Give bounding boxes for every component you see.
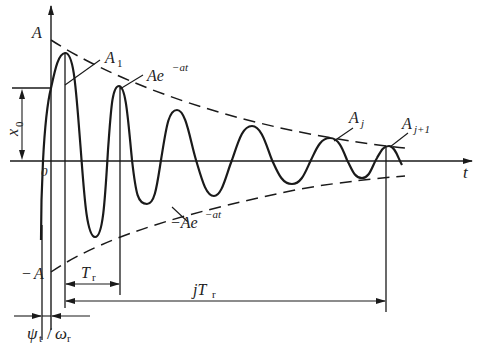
svg-text:0: 0 [13,121,25,127]
svg-text:T: T [81,264,91,281]
damped-oscillation-diagram: A − A t 0 x 0 A 1 Ae −at −Ae −at A j A j… [0,0,487,355]
upper-envelope-leader [120,75,143,89]
svg-text:x: x [4,129,21,137]
svg-text:t: t [39,332,42,344]
lower-envelope-curve [51,176,405,272]
svg-text:A: A [348,109,359,126]
x0-arrow-up [19,89,25,99]
svg-text:ψ: ψ [27,324,38,343]
label-upper-envelope: Ae −at [146,61,189,84]
svg-text:j+1: j+1 [412,123,430,135]
label-lower-envelope: −Ae −at [170,208,222,231]
aj1-leader [390,133,408,147]
a1-leader [65,60,100,85]
aj-leader [334,128,353,141]
svg-text:Ae: Ae [146,67,164,84]
label-phase-offset: ψ t / ω r [27,324,71,344]
svg-text:A: A [33,265,44,282]
svg-text:ω: ω [55,324,67,343]
label-j-periods: jT r [191,281,216,300]
label-amplitude-top: A [31,24,42,41]
svg-text:−at: −at [172,61,189,73]
label-origin: 0 [41,164,48,179]
label-peak-j: A j [348,109,364,129]
label-peak-j1: A j+1 [401,115,430,135]
svg-text:j: j [359,117,364,129]
label-amplitude-bottom: − A [22,265,44,282]
svg-text:−: − [22,265,31,282]
svg-text:A: A [104,49,115,66]
svg-text:−Ae: −Ae [170,214,198,231]
label-period: T r [81,264,96,283]
svg-text:r: r [67,332,71,344]
svg-text:jT: jT [191,281,207,299]
svg-text:1: 1 [117,57,123,69]
label-first-peak: A 1 [104,49,123,69]
svg-text:/: / [47,324,52,343]
svg-text:−at: −at [205,208,222,220]
svg-text:A: A [401,115,412,132]
x0-arrow-down [19,150,25,160]
svg-text:r: r [92,271,96,283]
label-time-axis: t [463,163,469,182]
damped-waveform [41,53,402,240]
svg-text:r: r [212,288,216,300]
